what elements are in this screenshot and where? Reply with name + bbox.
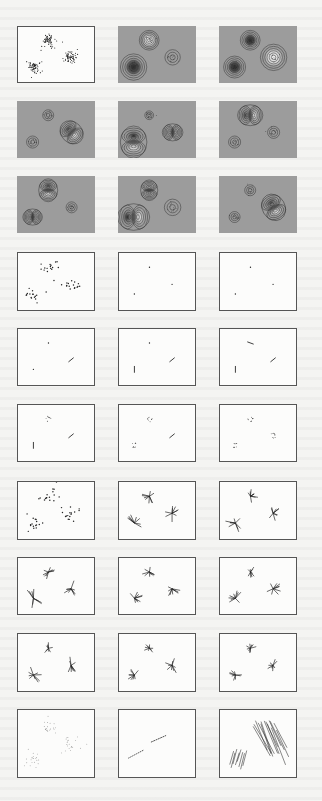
cluster-right — [61, 736, 87, 753]
data-point — [77, 54, 78, 55]
data-point — [77, 49, 78, 50]
data-point — [71, 60, 72, 61]
data-point — [70, 208, 71, 209]
data-point — [32, 70, 33, 71]
data-point — [70, 58, 71, 59]
data-point — [47, 731, 48, 732]
data-point — [43, 269, 44, 270]
data-point — [32, 290, 33, 291]
data-point — [50, 729, 51, 730]
data-point — [28, 531, 29, 532]
data-point — [71, 512, 72, 513]
data-point — [233, 142, 234, 143]
data-point — [48, 342, 49, 343]
star-ray — [269, 513, 273, 518]
data-point — [134, 293, 135, 294]
contour-line — [29, 216, 31, 219]
data-point — [56, 482, 57, 483]
data-point — [46, 37, 47, 38]
cluster-top — [38, 482, 60, 502]
contour-dipole — [141, 180, 158, 201]
data-point — [151, 40, 152, 41]
data-point — [50, 46, 51, 47]
data-point — [39, 524, 40, 525]
tiny-cluster — [147, 417, 152, 423]
data-point — [279, 54, 280, 55]
data-point — [149, 267, 150, 268]
panel-plot — [220, 634, 296, 691]
data-point — [35, 142, 36, 143]
data-point — [249, 39, 250, 40]
star-glyph — [267, 583, 281, 594]
data-point — [73, 61, 74, 62]
data-point — [156, 38, 157, 39]
hatch-bundle — [253, 720, 289, 764]
data-point — [70, 61, 71, 62]
star-ray — [235, 518, 240, 523]
data-point — [31, 67, 32, 68]
panel-plot — [18, 710, 94, 777]
data-point — [50, 41, 51, 42]
panel-r6-c2 — [118, 404, 196, 462]
hatch-bundle — [230, 749, 247, 769]
panel-r7-c3 — [219, 481, 297, 540]
panel-plot — [18, 27, 94, 82]
panel-r7-c2 — [118, 481, 196, 540]
data-point — [48, 39, 49, 40]
data-point — [68, 61, 69, 62]
contour-line — [167, 202, 178, 213]
data-point — [58, 496, 59, 497]
data-point — [48, 44, 49, 45]
data-point — [43, 41, 44, 42]
panel-plot — [18, 253, 94, 310]
data-point — [252, 186, 253, 187]
dash-mark — [169, 434, 174, 438]
hatch-stroke — [231, 753, 235, 768]
data-point — [55, 732, 56, 733]
data-point — [46, 728, 47, 729]
data-point — [171, 211, 172, 212]
data-point — [271, 129, 272, 130]
data-point — [69, 288, 70, 289]
data-point — [234, 214, 235, 215]
data-point — [72, 58, 73, 59]
panel-plot — [17, 101, 95, 158]
data-point — [274, 62, 275, 63]
data-point — [54, 39, 55, 40]
data-point — [239, 217, 240, 218]
data-point — [52, 116, 53, 117]
data-point — [78, 510, 79, 511]
data-point — [62, 58, 63, 59]
star-ray — [234, 519, 235, 524]
data-point — [24, 765, 25, 766]
star-ray — [270, 663, 273, 666]
data-point — [147, 113, 148, 114]
data-point — [273, 438, 274, 439]
panel-r8-c1 — [17, 557, 95, 615]
data-point — [34, 70, 35, 71]
data-point — [53, 489, 54, 490]
panel-r3-c2 — [118, 176, 196, 233]
data-point — [36, 302, 37, 303]
star-ray — [250, 496, 251, 502]
data-point — [41, 46, 42, 47]
star-ray — [44, 570, 49, 572]
data-point — [178, 61, 179, 62]
data-point — [35, 64, 36, 65]
data-point — [78, 508, 79, 509]
panel-plot — [220, 558, 296, 614]
data-point — [173, 59, 174, 60]
data-point — [50, 112, 51, 113]
data-point — [234, 447, 235, 448]
data-point — [156, 115, 157, 116]
data-point — [47, 416, 48, 417]
hatch-stroke — [237, 750, 241, 762]
data-point — [27, 293, 28, 294]
data-point — [67, 207, 68, 208]
data-point — [38, 763, 39, 764]
panel-plot — [119, 482, 195, 539]
hatch-stroke — [271, 728, 285, 765]
star-ray — [235, 598, 239, 602]
data-point — [270, 133, 271, 134]
cluster-top — [44, 716, 56, 733]
